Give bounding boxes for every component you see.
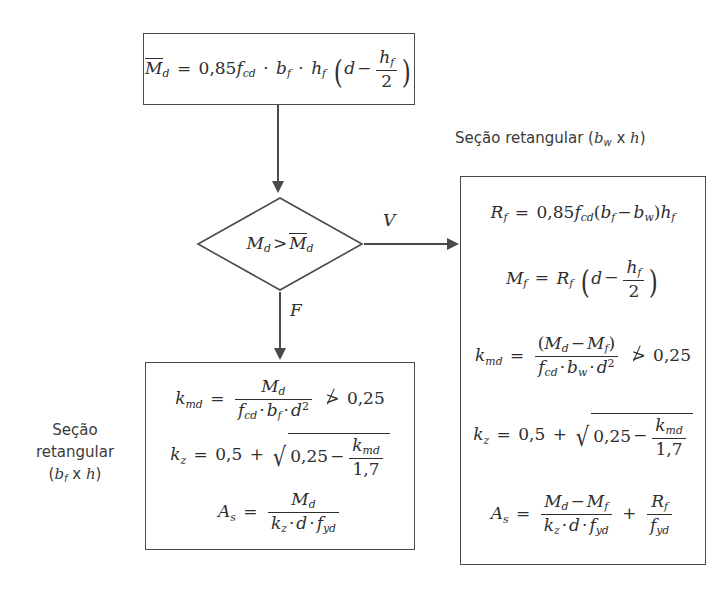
- equation-kz-right: kz = 0,5 + √0,25−kmd1,7: [473, 413, 693, 459]
- arrowhead-decision-to-right: [447, 238, 459, 250]
- radical-icon: √: [576, 424, 589, 450]
- caption-left-line1: Seção: [10, 420, 140, 442]
- radical-group: √0,25−kmd1,7: [271, 433, 390, 479]
- right-equation-box: Rf = 0,85fcd(bf−bw)hf Mf = Rf (d−hf2) km…: [460, 176, 706, 565]
- connector-decision-to-left: [279, 292, 281, 350]
- caption-left-line3: (bf x h): [10, 464, 140, 486]
- top-equation-box: Md = 0,85fcd · bf · hf (d−hf2): [143, 33, 415, 105]
- not-greater-icon: >: [626, 347, 647, 364]
- connector-top-to-decision: [277, 105, 279, 183]
- connector-decision-to-right: [364, 243, 448, 245]
- equation-kmd-left: kmd = Md fcd·bf·d2 > 0,25: [175, 377, 384, 422]
- not-greater-icon: >: [320, 390, 341, 407]
- equation-momento-limite: Md = 0,85fcd · bf · hf (d−hf2): [145, 48, 413, 91]
- radical-icon: √: [273, 444, 286, 470]
- equation-rf-right: Rf = 0,85fcd(bf−bw)hf: [491, 204, 676, 224]
- equation-mf-right: Mf = Rf (d−hf2): [506, 258, 660, 301]
- branch-label-false: F: [290, 300, 302, 320]
- branch-label-true: V: [383, 210, 395, 230]
- arrowhead-decision-to-left: [274, 348, 286, 360]
- decision-diamond: Md>Md: [196, 196, 364, 292]
- equation-as-left: As = Md kz·d·fyd: [218, 490, 342, 535]
- equation-kmd-right: kmd = (Md−Mf) fcd·bw·d2 > 0,25: [475, 334, 691, 379]
- caption-left-line2: retangular: [10, 442, 140, 464]
- equation-kz-left: kz = 0,5 + √0,25−kmd1,7: [170, 433, 390, 479]
- flowchart-canvas: Md = 0,85fcd · bf · hf (d−hf2) Md>Md V F…: [0, 0, 724, 598]
- caption-right-section: Seção retangular (bw x h): [455, 128, 717, 150]
- arrowhead-top-to-decision: [272, 181, 284, 193]
- caption-left-section: Seção retangular (bf x h): [10, 420, 140, 486]
- decision-label: Md>Md: [196, 196, 364, 292]
- left-equation-box: kmd = Md fcd·bf·d2 > 0,25 kz = 0,5 + √0,…: [145, 362, 415, 550]
- equation-as-right: As = Md−Mf kz·d·fyd + Rf fyd: [491, 492, 676, 537]
- radical-group: √0,25−kmd1,7: [574, 413, 693, 459]
